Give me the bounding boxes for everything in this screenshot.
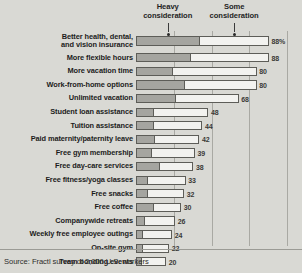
category-label: Free gym membership: [0, 149, 136, 157]
bar-value-label: 88%: [271, 38, 285, 45]
bar-row: Free gym membership39: [0, 146, 302, 160]
bar-track: 68: [136, 94, 302, 103]
bar-segment-some[interactable]: [148, 190, 184, 197]
stacked-bar[interactable]: [136, 53, 269, 62]
bar-value-label: 80: [259, 68, 267, 75]
stacked-bar[interactable]: [136, 216, 175, 225]
bar-track: 80: [136, 80, 302, 89]
bar-value-label: 24: [175, 231, 183, 238]
bar-track: 32: [136, 189, 302, 198]
bar-segment-some[interactable]: [152, 149, 194, 156]
bar-segment-some[interactable]: [160, 163, 193, 170]
bar-segment-some[interactable]: [154, 122, 202, 129]
bar-segment-heavy[interactable]: [137, 217, 145, 224]
legend-some-consideration: Some consideration: [203, 2, 265, 21]
bar-segment-some[interactable]: [154, 109, 208, 116]
bar-segment-some[interactable]: [173, 68, 256, 75]
bar-rows: Better health, dental, and vision insura…: [0, 31, 302, 269]
category-label: Paid maternity/paternity leave: [0, 135, 136, 143]
bar-segment-heavy[interactable]: [137, 149, 152, 156]
category-label: Work-from-home options: [0, 81, 136, 89]
bar-segment-heavy[interactable]: [137, 190, 148, 197]
bar-track: 80: [136, 67, 302, 76]
bar-segment-heavy[interactable]: [137, 136, 155, 143]
bar-value-label: 68: [241, 95, 249, 102]
stacked-bar[interactable]: [136, 148, 195, 157]
category-label: Companywide retreats: [0, 217, 136, 225]
bar-value-label: 33: [188, 177, 196, 184]
bar-row: Unlimited vacation68: [0, 92, 302, 106]
bar-segment-heavy[interactable]: [137, 122, 154, 129]
bar-row: Free fitness/yoga classes33: [0, 173, 302, 187]
bar-row: Companywide retreats26: [0, 214, 302, 228]
category-label: Better health, dental, and vision insura…: [0, 33, 136, 50]
category-label: Free day-care services: [0, 162, 136, 170]
bar-value-label: 48: [211, 109, 219, 116]
stacked-bar[interactable]: [136, 94, 239, 103]
bar-track: 26: [136, 216, 302, 225]
stacked-bar[interactable]: [136, 36, 269, 45]
bar-row: More flexible hours88: [0, 51, 302, 65]
bar-row: Better health, dental, and vision insura…: [0, 31, 302, 51]
bar-value-label: 42: [202, 136, 210, 143]
bar-segment-some[interactable]: [185, 81, 255, 88]
stacked-bar[interactable]: [136, 67, 257, 76]
bar-segment-some[interactable]: [145, 217, 175, 224]
bar-row: Paid maternity/paternity leave42: [0, 133, 302, 147]
legend-heavy-consideration: Heavy consideration: [137, 2, 199, 21]
bar-segment-heavy[interactable]: [137, 37, 200, 44]
stacked-bar[interactable]: [136, 203, 181, 212]
bar-segment-heavy[interactable]: [137, 109, 154, 116]
bar-segment-heavy[interactable]: [137, 54, 191, 61]
bar-segment-heavy[interactable]: [137, 81, 185, 88]
category-label: Weekly free employee outings: [0, 230, 136, 238]
bar-segment-some[interactable]: [143, 231, 171, 238]
category-label: Free coffee: [0, 203, 136, 211]
bar-track: 30: [136, 203, 302, 212]
stacked-bar[interactable]: [136, 80, 257, 89]
bar-segment-some[interactable]: [176, 95, 237, 102]
stacked-bar[interactable]: [136, 108, 208, 117]
bar-segment-some[interactable]: [200, 37, 267, 44]
legend-heavy-line2: consideration: [137, 11, 199, 20]
stacked-bar[interactable]: [136, 162, 193, 171]
stacked-bar[interactable]: [136, 121, 202, 130]
bar-segment-heavy[interactable]: [137, 95, 176, 102]
bar-segment-some[interactable]: [155, 136, 198, 143]
stacked-bar[interactable]: [136, 189, 184, 198]
bar-segment-some[interactable]: [154, 204, 181, 211]
stacked-bar[interactable]: [136, 176, 186, 185]
bar-row: Tuition assistance44: [0, 119, 302, 133]
bar-segment-heavy[interactable]: [137, 163, 160, 170]
category-label: Unlimited vacation: [0, 94, 136, 102]
bar-value-label: 32: [187, 190, 195, 197]
bar-value-label: 80: [259, 81, 267, 88]
bar-value-label: 88: [271, 54, 279, 61]
bar-row: Free coffee30: [0, 201, 302, 215]
category-label: More flexible hours: [0, 54, 136, 62]
bar-value-label: 39: [197, 149, 205, 156]
bar-segment-some[interactable]: [148, 177, 185, 184]
bar-track: 42: [136, 135, 302, 144]
bar-track: 24: [136, 230, 302, 239]
bar-track: 88%: [136, 36, 302, 45]
bar-segment-some[interactable]: [191, 54, 268, 61]
bar-row: Free snacks32: [0, 187, 302, 201]
plot-area: Better health, dental, and vision insura…: [0, 31, 302, 246]
category-label: Free fitness/yoga classes: [0, 176, 136, 184]
bar-row: More vacation time80: [0, 65, 302, 79]
bar-segment-heavy[interactable]: [137, 204, 154, 211]
bar-row: Free day-care services38: [0, 160, 302, 174]
bar-value-label: 44: [205, 122, 213, 129]
bar-segment-heavy[interactable]: [137, 68, 173, 75]
legend-some-line2: consideration: [203, 11, 265, 20]
bar-row: Weekly free employee outings24: [0, 228, 302, 242]
stacked-bar[interactable]: [136, 135, 199, 144]
chart-container: Heavy consideration Some consideration B…: [0, 0, 302, 273]
bar-track: 33: [136, 176, 302, 185]
stacked-bar[interactable]: [136, 230, 172, 239]
bar-track: 88: [136, 53, 302, 62]
category-label: Tuition assistance: [0, 122, 136, 130]
bar-segment-heavy[interactable]: [137, 177, 148, 184]
bar-track: 48: [136, 108, 302, 117]
